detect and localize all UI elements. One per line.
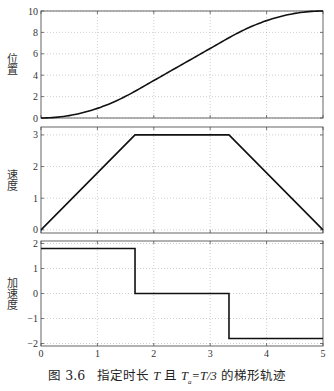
caption-eq: =T/3	[192, 369, 217, 383]
svg-text:置: 置	[7, 64, 18, 77]
position-curve	[41, 11, 323, 118]
y-axis-label: 加速度	[7, 277, 18, 312]
y-tick-label: 10	[28, 6, 38, 17]
plot-frame	[41, 127, 323, 233]
x-tick-label: 1	[95, 348, 100, 359]
caption-text-3: 的梯形轨迹	[221, 368, 286, 383]
velocity-curve	[41, 135, 323, 230]
y-tick-label: 2	[33, 238, 38, 249]
y-tick-label: 6	[33, 48, 38, 59]
y-tick-label: 0	[33, 288, 38, 299]
y-axis-label: 位置	[7, 52, 18, 77]
y-tick-label: 0	[33, 224, 38, 235]
y-tick-label: −2	[27, 338, 38, 349]
figure-number: 图 3.6	[48, 368, 85, 383]
y-tick-label: 1	[33, 263, 38, 274]
caption-text-1: 指定时长	[97, 368, 149, 383]
svg-text:度: 度	[7, 298, 18, 312]
caption-var-T: T	[153, 369, 160, 383]
caption-text-2: 且	[164, 368, 177, 383]
caption-var-Ta: Ta	[181, 369, 191, 383]
figure-caption: 图 3.6 指定时长 T 且 Ta=T/3 的梯形轨迹	[0, 365, 334, 386]
y-tick-label: 0	[33, 113, 38, 124]
x-tick-label: 4	[264, 348, 269, 359]
trapezoidal-trajectory-chart: 0246810位置0123速度−2−1012012345加速度	[0, 0, 334, 391]
y-tick-label: 2	[33, 91, 38, 102]
y-tick-label: −1	[27, 313, 38, 324]
position-plot: 0246810位置	[7, 6, 324, 124]
y-tick-label: 1	[33, 193, 38, 204]
acceleration-plot: −2−1012012345加速度	[7, 238, 326, 359]
y-tick-label: 4	[33, 70, 38, 81]
x-tick-label: 0	[39, 348, 44, 359]
y-tick-label: 3	[33, 129, 38, 140]
y-tick-label: 8	[33, 27, 38, 38]
x-tick-label: 3	[208, 348, 213, 359]
y-tick-label: 2	[33, 161, 38, 172]
x-tick-label: 5	[321, 348, 326, 359]
x-tick-label: 2	[151, 348, 156, 359]
y-axis-label: 速度	[7, 169, 18, 193]
velocity-plot: 0123速度	[7, 127, 324, 235]
svg-text:度: 度	[7, 179, 18, 193]
